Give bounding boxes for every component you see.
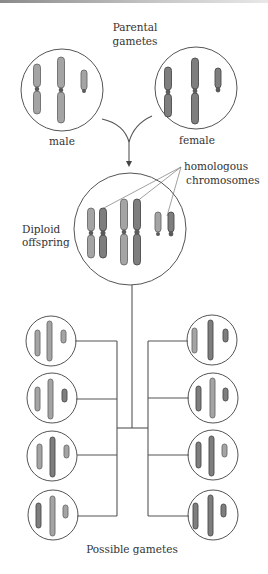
gamete-left-1	[26, 316, 76, 366]
fertilization-arrow	[102, 116, 152, 167]
female-label: female	[179, 134, 215, 146]
meiosis-diagram: Parental gametes male female homolog	[0, 0, 268, 574]
gamete-left-4	[28, 490, 78, 540]
diploid-offspring-cell	[74, 173, 186, 285]
possible-gametes-label: Possible gametes	[86, 543, 178, 555]
homologous-label-line1: homologous	[184, 160, 248, 172]
parental-gametes-title-line2: gametes	[113, 35, 158, 47]
gamete-right-4	[188, 490, 238, 540]
diploid-label-line2: offspring	[22, 236, 70, 248]
male-gamete	[21, 49, 103, 131]
gamete-left-3	[27, 431, 77, 481]
diploid-label-line1: Diploid	[22, 223, 61, 235]
gamete-right-3	[188, 430, 238, 480]
gamete-left-2	[27, 373, 77, 423]
gamete-right-2	[188, 373, 238, 423]
meiosis-tree	[75, 285, 189, 516]
homologous-label-line2: chromosomes	[186, 174, 260, 186]
male-label: male	[49, 135, 75, 147]
female-gamete	[155, 47, 237, 129]
parental-gametes-title-line1: Parental	[113, 21, 158, 33]
gamete-right-1	[187, 315, 237, 365]
